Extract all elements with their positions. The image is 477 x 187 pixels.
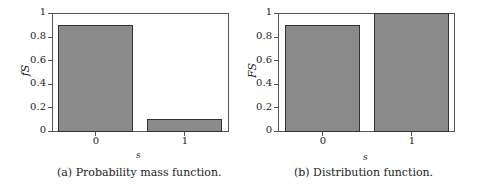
ytick-mark <box>274 84 278 85</box>
ytick: 0.8 <box>248 30 272 41</box>
bar-0 <box>285 25 360 132</box>
ytick: 0 <box>248 124 272 135</box>
xtick: 0 <box>313 135 333 146</box>
ytick-mark <box>274 60 278 61</box>
xtick: 1 <box>402 135 422 146</box>
ytick-mark <box>274 13 278 14</box>
ytick: 1 <box>248 6 272 17</box>
y-axis-label: FS <box>246 63 259 78</box>
ytick: 0.2 <box>248 101 272 112</box>
caption: (b) Distribution function. <box>294 166 433 179</box>
ytick: 0.4 <box>248 77 272 88</box>
ytick-mark <box>274 131 278 132</box>
ytick-mark <box>274 107 278 108</box>
chart-cdf: 0 0.2 0.4 0.6 0.8 1 0 1 FS s (b) Distrib… <box>0 0 477 187</box>
x-axis-label: s <box>363 152 368 162</box>
bar-1 <box>374 13 449 132</box>
ytick-mark <box>274 37 278 38</box>
